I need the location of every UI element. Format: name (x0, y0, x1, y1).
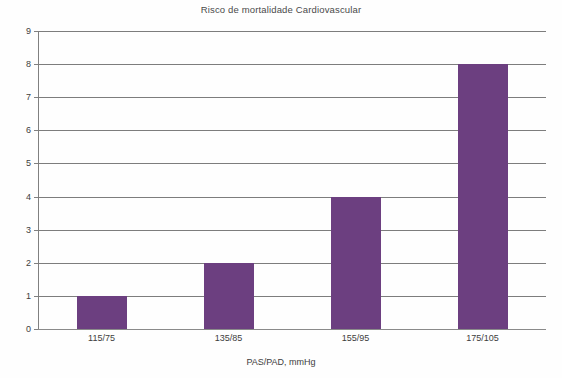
y-tick-label: 5 (26, 159, 31, 168)
chart-title: Risco de mortalidade Cardiovascular (0, 4, 562, 15)
gridline: 0 (38, 329, 546, 330)
y-tick-label: 2 (26, 258, 31, 267)
bar[interactable] (458, 64, 508, 329)
y-tick-label: 7 (26, 93, 31, 102)
y-tick-label: 3 (26, 225, 31, 234)
bar[interactable] (331, 197, 381, 329)
y-tick-label: 6 (26, 126, 31, 135)
y-tick-mark (34, 329, 38, 330)
plot-area: 0123456789 (38, 31, 546, 329)
y-tick-label: 0 (26, 325, 31, 334)
bar[interactable] (77, 296, 127, 329)
y-tick-label: 9 (26, 27, 31, 36)
bar[interactable] (204, 263, 254, 329)
y-tick-label: 1 (26, 291, 31, 300)
x-tick-label: 155/95 (342, 334, 370, 343)
y-tick-label: 8 (26, 60, 31, 69)
x-tick-label: 175/105 (466, 334, 499, 343)
bars-group (38, 31, 546, 329)
chart-figure: Risco de mortalidade Cardiovascular 0123… (0, 0, 562, 378)
x-tick-label: 115/75 (88, 334, 115, 343)
x-tick-label: 135/85 (215, 334, 243, 343)
y-tick-label: 4 (26, 192, 31, 201)
x-axis-title: PAS/PAD, mmHg (0, 357, 562, 367)
clipped-caption (0, 372, 562, 378)
